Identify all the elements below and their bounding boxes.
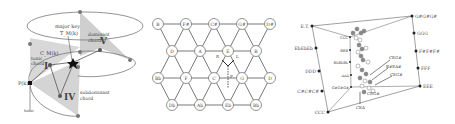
svg-text:C#C#C#: C#C#C# (297, 89, 319, 94)
svg-text:B#EA#: B#EA# (386, 64, 402, 69)
music-theory-figure: major key T_M(k) dominant chord V C_M(k)… (0, 0, 455, 124)
svg-text:CEG#: CEG# (389, 55, 402, 60)
svg-text:G#G#G#: G#G#G# (332, 86, 349, 90)
svg-text:EEE: EEE (423, 84, 433, 89)
svg-text:E.T.: E.T. (301, 24, 310, 29)
svg-text:GGG: GGG (417, 31, 428, 36)
svg-text:FFF: FFF (421, 66, 430, 71)
svg-text:F#F#F#: F#F#F# (419, 49, 440, 54)
lattice-panel: E.T.EbEbEbDDDC#C#C#CCCG#G#G#GGGF#F#F#FFF… (0, 0, 455, 124)
svg-text:DDD: DDD (305, 69, 316, 74)
svg-text:CEG#: CEG# (390, 72, 403, 77)
svg-text:CEA: CEA (356, 105, 365, 110)
svg-text:BbBbBb: BbBbBb (334, 61, 349, 65)
svg-text:BBB: BBB (340, 49, 348, 53)
svg-text:CCC: CCC (340, 36, 348, 40)
svg-text:EbEbEb: EbEbEb (295, 46, 314, 51)
svg-text:CEG#: CEG# (367, 91, 380, 96)
svg-text:CCC: CCC (315, 110, 326, 115)
svg-text:AAA: AAA (340, 74, 349, 78)
svg-text:G#G#G#: G#G#G# (415, 14, 437, 19)
